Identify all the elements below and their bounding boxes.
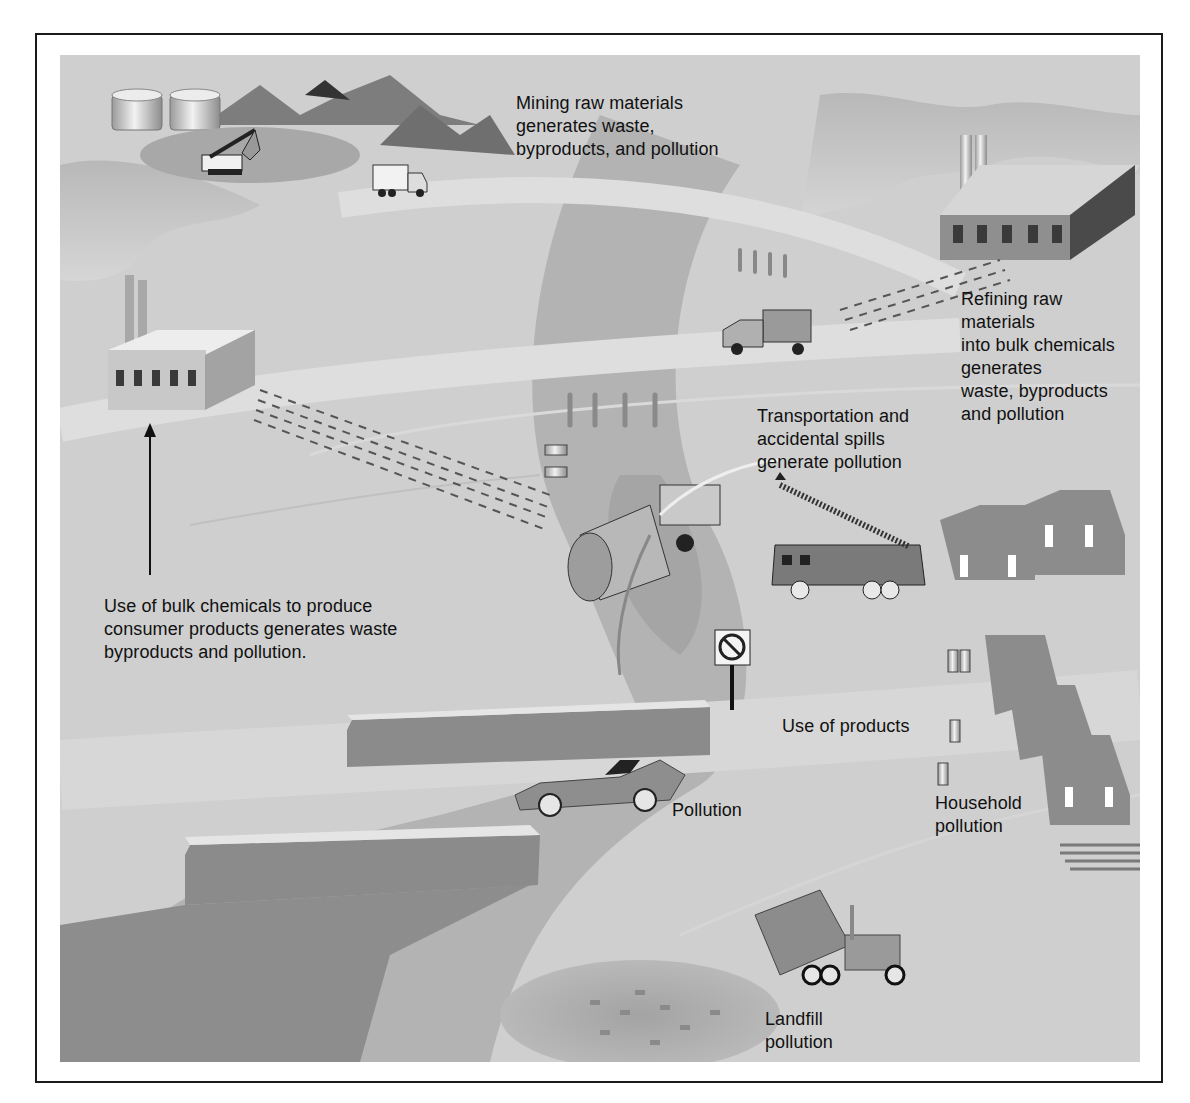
dump-truck-icon [755, 890, 904, 984]
label-mining: Mining raw materials generates waste, by… [516, 92, 719, 161]
label-manufacturing: Use of bulk chemicals to produce consume… [104, 595, 397, 664]
label-transportation: Transportation and accidental spills gen… [757, 405, 909, 474]
fire-truck-icon [772, 472, 925, 599]
label-refining: Refining raw materials into bulk chemica… [961, 288, 1115, 426]
arrow-up-icon [144, 423, 156, 575]
label-use-of-products: Use of products [782, 715, 910, 738]
label-household: Household pollution [935, 792, 1022, 838]
scene-illustration [60, 55, 1140, 1062]
manufacturing-factory [108, 275, 255, 410]
label-pollution: Pollution [672, 799, 742, 822]
illustration-panel: Mining raw materials generates waste, by… [60, 55, 1140, 1062]
storage-tanks [112, 89, 220, 130]
excavator-icon [140, 127, 360, 183]
landfill-pit [500, 960, 780, 1062]
label-landfill: Landfill pollution [765, 1008, 833, 1054]
